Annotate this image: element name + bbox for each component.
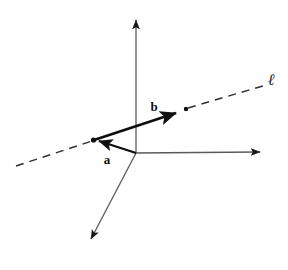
dashed-line-right-segment: [188, 85, 266, 108]
vector-b-group: [94, 113, 176, 140]
axes-group: [91, 20, 260, 239]
horizontal-axis: [136, 152, 260, 153]
line-l-label: ℓ: [268, 71, 275, 88]
dashed-line-left-segment: [16, 141, 92, 166]
point-q-marker: [184, 107, 188, 111]
vector-b-shaft: [94, 113, 176, 140]
vector-diagram: a b ℓ: [0, 0, 288, 270]
figure-root: a b ℓ: [0, 0, 288, 270]
depth-axis: [91, 153, 136, 239]
point-p-marker: [91, 137, 96, 142]
vector-b-label: b: [150, 99, 157, 114]
vector-a-label: a: [104, 152, 111, 167]
